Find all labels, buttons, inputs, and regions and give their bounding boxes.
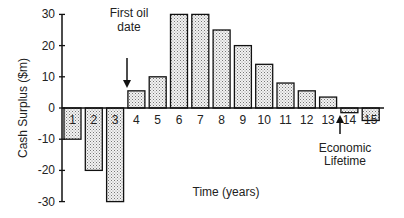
y-tick-label: 0 bbox=[48, 101, 55, 115]
first-oil-label-line2: date bbox=[117, 20, 141, 34]
x-axis-title: Time (years) bbox=[193, 185, 260, 199]
x-tick-label: 5 bbox=[154, 113, 161, 127]
x-tick-label: 13 bbox=[321, 113, 335, 127]
x-tick-label: 15 bbox=[364, 113, 378, 127]
bar-year-11 bbox=[277, 83, 294, 108]
y-tick-label: 20 bbox=[42, 39, 56, 53]
y-tick-label: -30 bbox=[38, 195, 56, 209]
bar-year-10 bbox=[256, 64, 273, 108]
bar-year-9 bbox=[234, 46, 251, 108]
y-axis-title: Cash Surplus ($m) bbox=[16, 58, 30, 158]
x-tick-label: 8 bbox=[218, 113, 225, 127]
bar-year-4 bbox=[128, 91, 145, 108]
y-tick-label: 10 bbox=[42, 70, 56, 84]
x-tick-label: 9 bbox=[240, 113, 247, 127]
bar-year-8 bbox=[213, 30, 230, 108]
economic-lifetime-label-line1: Economic bbox=[319, 141, 372, 155]
first-oil-annotation: First oil date bbox=[110, 6, 149, 88]
y-tick-label: 30 bbox=[42, 7, 56, 21]
x-tick-label: 12 bbox=[300, 113, 314, 127]
bar-year-6 bbox=[171, 14, 188, 108]
y-axis: 3020100-10-20-30 bbox=[38, 7, 65, 208]
x-tick-label: 4 bbox=[133, 113, 140, 127]
x-tick-label: 7 bbox=[197, 113, 204, 127]
y-tick-label: -20 bbox=[38, 163, 56, 177]
bar-year-5 bbox=[149, 77, 166, 108]
cash-surplus-chart: 3020100-10-20-30 123456789101112131415 C… bbox=[0, 0, 404, 218]
x-tick-label: 1 bbox=[69, 113, 76, 127]
x-tick-label: 10 bbox=[258, 113, 272, 127]
y-tick-label: -10 bbox=[38, 132, 56, 146]
x-tick-label: 3 bbox=[112, 113, 119, 127]
x-tick-label: 2 bbox=[90, 113, 97, 127]
bar-year-13 bbox=[320, 97, 337, 108]
bar-year-7 bbox=[192, 14, 209, 108]
x-tick-label: 11 bbox=[279, 113, 292, 127]
x-tick-label: 14 bbox=[343, 113, 357, 127]
economic-lifetime-label-line2: Lifetime bbox=[324, 154, 366, 168]
bar-year-12 bbox=[298, 91, 315, 108]
first-oil-label-line1: First oil bbox=[110, 6, 149, 20]
x-tick-label: 6 bbox=[176, 113, 183, 127]
category-labels: 123456789101112131415 bbox=[69, 113, 378, 127]
arrowhead-down-icon bbox=[123, 80, 131, 88]
